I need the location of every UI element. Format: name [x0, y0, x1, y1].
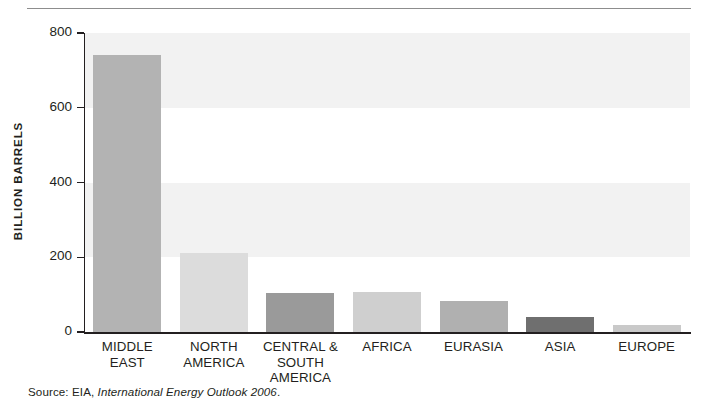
y-tick-label: 600: [34, 99, 72, 114]
top-divider-rule: [27, 8, 691, 9]
x-axis-label-line: EAST: [84, 355, 171, 371]
bar-central-south-america: [266, 293, 334, 332]
bar-eurasia: [440, 301, 508, 332]
x-axis-label-line: ASIA: [517, 339, 604, 355]
source-prefix: Source: EIA,: [28, 385, 98, 398]
chart-figure: 0200400600800 BILLION BARRELS MIDDLEEAST…: [0, 0, 706, 413]
x-axis-label-middle-east: MIDDLEEAST: [84, 339, 171, 370]
x-axis-label-line: CENTRAL &: [257, 339, 344, 355]
y-axis-title: BILLION BARRELS: [12, 101, 24, 261]
y-tick-label: 800: [34, 24, 72, 39]
y-tick-label: 200: [34, 248, 72, 263]
x-axis-label-line: AMERICA: [257, 370, 344, 386]
background-band-upper: [84, 33, 690, 108]
bar-middle-east: [93, 55, 161, 332]
x-axis-label-eurasia: EURASIA: [430, 339, 517, 355]
x-axis-label-line: EURASIA: [430, 339, 517, 355]
x-axis-label-line: AFRICA: [344, 339, 431, 355]
y-tick-label: 400: [34, 174, 72, 189]
plot-area: [84, 33, 690, 332]
x-axis-label-line: SOUTH: [257, 355, 344, 371]
y-tick-mark: [77, 182, 84, 183]
x-axis-label-line: AMERICA: [171, 355, 258, 371]
x-axis-label-africa: AFRICA: [344, 339, 431, 355]
source-caption: Source: EIA, International Energy Outloo…: [28, 385, 280, 398]
x-axis-label-north-america: NORTHAMERICA: [171, 339, 258, 370]
x-axis-label-line: NORTH: [171, 339, 258, 355]
bar-africa: [353, 292, 421, 332]
x-axis-label-line: MIDDLE: [84, 339, 171, 355]
background-band-lower: [84, 183, 690, 258]
x-axis-label-line: EUROPE: [603, 339, 690, 355]
y-tick-mark: [77, 257, 84, 258]
x-axis-label-asia: ASIA: [517, 339, 604, 355]
y-axis-line: [84, 33, 85, 333]
bar-asia: [526, 317, 594, 332]
y-tick-mark: [77, 331, 84, 332]
y-tick-mark: [77, 32, 84, 33]
source-suffix: .: [277, 385, 280, 398]
source-publication: International Energy Outlook 2006: [98, 385, 277, 398]
x-axis-label-europe: EUROPE: [603, 339, 690, 355]
x-axis-label-central-south-america: CENTRAL &SOUTHAMERICA: [257, 339, 344, 386]
bar-north-america: [180, 253, 248, 332]
y-tick-label: 0: [34, 323, 72, 338]
y-tick-mark: [77, 107, 84, 108]
x-axis-line: [84, 332, 691, 334]
